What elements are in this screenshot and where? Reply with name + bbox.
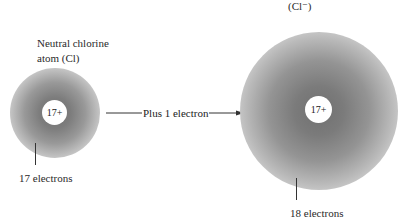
neutral-atom-nucleus-charge: 17+ [47,107,63,118]
neutral-atom-nucleus: 17+ [42,100,67,125]
neutral-atom-leader-line [35,143,36,165]
arrow-label: Plus 1 electron [142,107,209,119]
neutral-atom-electron-label: 17 electrons [19,171,72,185]
ion-nucleus-charge: 17+ [311,104,327,115]
neutral-atom-title-line2: atom (Cl) [37,51,79,65]
neutral-atom-title-line1: Neutral chlorine [37,36,109,50]
ion-electron-label: 18 electrons [290,206,343,220]
ion-leader-line [296,178,297,200]
ion-nucleus: 17+ [305,96,332,123]
ion-title: (Cl⁻) [288,0,312,13]
